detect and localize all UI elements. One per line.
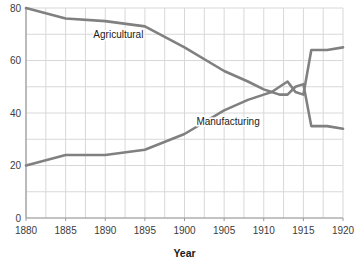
chart-canvas: 188018851890189519001905191019151920 020… <box>0 0 354 267</box>
x-axis-tick-labels: 188018851890189519001905191019151920 <box>15 218 354 236</box>
x-axis-title-text: Year <box>173 247 195 259</box>
x-tick-label: 1880 <box>15 225 38 236</box>
y-tick-label: 60 <box>10 55 22 66</box>
x-tick-label: 1910 <box>253 225 276 236</box>
x-tick-label: 1890 <box>94 225 117 236</box>
x-tick-label: 1905 <box>213 225 236 236</box>
x-tick-label: 1900 <box>173 225 196 236</box>
x-tick-label: 1920 <box>332 225 354 236</box>
annotation-label-manufacturing: Manufacturing <box>196 116 259 127</box>
x-tick-label: 1895 <box>134 225 157 236</box>
x-axis-title: Year <box>173 247 195 259</box>
y-tick-label: 0 <box>15 213 21 224</box>
annotation-label-agricultural: Agricultural <box>93 29 143 40</box>
x-tick-label: 1915 <box>292 225 315 236</box>
y-tick-label: 20 <box>10 160 22 171</box>
y-tick-label: 80 <box>10 3 22 14</box>
x-tick-label: 1885 <box>55 225 78 236</box>
y-tick-label: 40 <box>10 108 22 119</box>
line-chart: 188018851890189519001905191019151920 020… <box>0 0 354 267</box>
